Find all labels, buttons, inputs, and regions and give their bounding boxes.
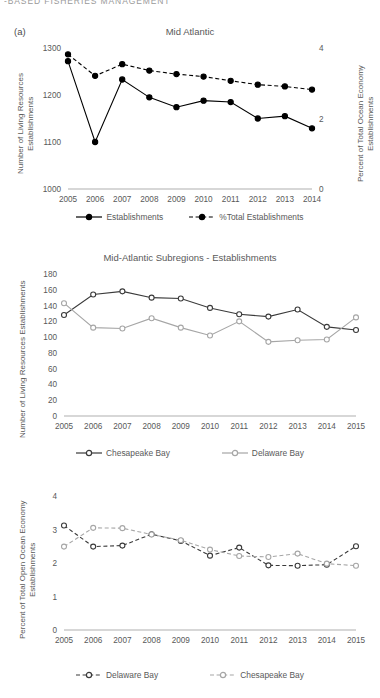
data-point bbox=[324, 324, 329, 329]
plot-area-c: 0123420052006200720082009201020112012201… bbox=[0, 486, 380, 664]
data-point bbox=[208, 547, 213, 552]
legend-item-delaware-bay[interactable]: Delaware Bay bbox=[222, 448, 304, 458]
x-tick-label: 2012 bbox=[249, 195, 268, 204]
data-point bbox=[62, 301, 67, 306]
data-point bbox=[309, 126, 314, 131]
x-tick-label: 2009 bbox=[167, 195, 186, 204]
y-tick-label: 0 bbox=[52, 412, 57, 421]
y-tick-label: 40 bbox=[48, 380, 58, 389]
x-tick-label: 2008 bbox=[140, 195, 159, 204]
data-point bbox=[147, 68, 152, 73]
x-tick-label: 2005 bbox=[59, 195, 78, 204]
data-point bbox=[208, 333, 213, 338]
x-tick-label: 2015 bbox=[347, 636, 366, 645]
x-tick-label: 2011 bbox=[230, 636, 248, 645]
data-point bbox=[208, 305, 213, 310]
legend-b: Chesapeake BayDelaware Bay bbox=[0, 448, 380, 458]
y-tick-label: 180 bbox=[43, 270, 57, 279]
x-tick-label: 2011 bbox=[222, 195, 240, 204]
legend-item-chesapeake-bay[interactable]: Chesapeake Bay bbox=[210, 670, 304, 680]
x-tick-label: 2009 bbox=[172, 636, 191, 645]
y-tick-label: 1200 bbox=[43, 91, 62, 100]
chart-title-mid-atlantic: Mid Atlantic bbox=[0, 26, 380, 37]
legend-label: Delaware Bay bbox=[252, 448, 304, 458]
x-tick-label: 2014 bbox=[303, 195, 322, 204]
x-tick-label: 2014 bbox=[318, 636, 337, 645]
data-point bbox=[237, 553, 242, 558]
series-line bbox=[68, 61, 312, 142]
data-point bbox=[282, 84, 287, 89]
legend-swatch bbox=[76, 448, 102, 458]
data-point bbox=[174, 71, 179, 76]
data-point bbox=[237, 545, 242, 550]
chart-title-subregions-establishments: Mid-Atlantic Subregions - Establishments bbox=[0, 252, 380, 263]
data-point bbox=[309, 87, 314, 92]
data-point bbox=[120, 326, 125, 331]
x-tick-label: 2010 bbox=[201, 422, 220, 431]
legend-label: Delaware Bay bbox=[106, 670, 158, 680]
x-tick-label: 2009 bbox=[172, 422, 191, 431]
x-tick-label: 2006 bbox=[86, 195, 105, 204]
data-point bbox=[91, 544, 96, 549]
y-tick-label: 2 bbox=[52, 559, 57, 568]
x-tick-label: 2011 bbox=[230, 422, 248, 431]
legend-label: Establishments bbox=[106, 212, 163, 222]
y-tick-label-right: 2 bbox=[319, 115, 324, 124]
y-tick-label: 1100 bbox=[43, 138, 61, 147]
x-tick-label: 2008 bbox=[142, 422, 161, 431]
data-point bbox=[295, 551, 300, 556]
data-point bbox=[65, 52, 70, 57]
legend-item-delaware-bay[interactable]: Delaware Bay bbox=[76, 670, 158, 680]
series-line bbox=[64, 525, 356, 565]
data-point bbox=[237, 319, 242, 324]
data-point bbox=[149, 295, 154, 300]
y-tick-label: 0 bbox=[52, 626, 57, 635]
x-tick-label: 2006 bbox=[84, 636, 103, 645]
data-point bbox=[91, 292, 96, 297]
data-point bbox=[201, 74, 206, 79]
x-tick-label: 2010 bbox=[201, 636, 220, 645]
plot-area-b: 0204060801001201401601802005200620072008… bbox=[0, 266, 380, 446]
data-point bbox=[120, 62, 125, 67]
data-point bbox=[91, 325, 96, 330]
chart-panel-subregions-establishments: Mid-Atlantic Subregions - Establishments… bbox=[0, 252, 380, 470]
y-tick-label: 140 bbox=[43, 302, 57, 311]
data-point bbox=[282, 114, 287, 119]
y-tick-label: 1000 bbox=[43, 185, 62, 194]
data-point bbox=[354, 315, 359, 320]
data-point bbox=[91, 525, 96, 530]
data-point bbox=[201, 98, 206, 103]
legend-item-chesapeake-bay[interactable]: Chesapeake Bay bbox=[76, 448, 170, 458]
series-chesapeake-bay bbox=[62, 289, 359, 333]
x-tick-label: 2005 bbox=[55, 422, 74, 431]
data-point bbox=[354, 563, 359, 568]
data-point bbox=[147, 95, 152, 100]
x-tick-label: 2007 bbox=[113, 636, 132, 645]
data-point bbox=[120, 526, 125, 531]
legend-swatch bbox=[210, 670, 236, 680]
chart-panel-mid-atlantic: (a) Mid Atlantic Number of Living Resour… bbox=[0, 26, 380, 238]
x-tick-label: 2012 bbox=[259, 636, 278, 645]
x-tick-label: 2010 bbox=[194, 195, 213, 204]
x-tick-label: 2015 bbox=[347, 422, 366, 431]
legend-item-total-establishments[interactable]: %Total Establishments bbox=[189, 212, 303, 222]
series-total-establishments bbox=[65, 52, 314, 92]
data-point bbox=[237, 312, 242, 317]
data-point bbox=[149, 532, 154, 537]
data-point bbox=[228, 99, 233, 104]
x-tick-label: 2008 bbox=[142, 636, 161, 645]
data-point bbox=[354, 544, 359, 549]
data-point bbox=[295, 563, 300, 568]
legend-swatch bbox=[76, 212, 102, 222]
x-tick-label: 2014 bbox=[318, 422, 337, 431]
y-tick-label: 4 bbox=[52, 492, 57, 501]
legend-a: Establishments%Total Establishments bbox=[0, 212, 380, 222]
chart-panel-subregions-percent: Percent of Total Open Ocean Economy Esta… bbox=[0, 484, 380, 698]
x-tick-label: 2013 bbox=[276, 195, 295, 204]
legend-item-establishments[interactable]: Establishments bbox=[76, 212, 163, 222]
legend-label: Chesapeake Bay bbox=[240, 670, 304, 680]
legend-swatch bbox=[189, 212, 215, 222]
plot-area-a: 1000110012001300024200520062007200820092… bbox=[0, 40, 380, 215]
x-tick-label: 2007 bbox=[113, 195, 132, 204]
data-point bbox=[295, 307, 300, 312]
